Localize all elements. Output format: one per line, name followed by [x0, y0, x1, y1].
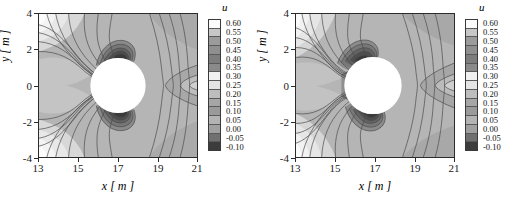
y-axis-label: y [ m ] [0, 30, 13, 62]
colorbar-title: u [479, 1, 485, 13]
plot-frame-left [38, 13, 198, 158]
ytickmark [291, 86, 295, 87]
xtick-label: 19 [153, 163, 164, 174]
ytickmark [291, 122, 295, 123]
x-axis-variable: x [359, 179, 364, 193]
colorbar-left: u 0.600.550.500.450.400.350.300.250.200.… [208, 13, 256, 161]
ytick-label: -2 [274, 117, 289, 128]
contour-plot-left: 13 15 17 19 21 4 2 0 -2 -4 x [ m ] y [ m… [0, 0, 257, 204]
xtick-label: 21 [449, 163, 460, 174]
colorbar-band [466, 55, 477, 64]
colorbar-band [466, 20, 477, 29]
colorbar-band [209, 99, 220, 108]
colorbar-band [466, 37, 477, 46]
ytickmark [291, 13, 295, 14]
ytick-label: -4 [17, 153, 32, 164]
contour-field-left [39, 14, 197, 157]
colorbar-band [209, 90, 220, 99]
xtick-label: 21 [192, 163, 203, 174]
colorbar-band [209, 81, 220, 90]
colorbar-band [209, 72, 220, 81]
ytickmark [291, 158, 295, 159]
ytickmark [34, 122, 38, 123]
colorbar-band [466, 125, 477, 134]
colorbar-band [466, 107, 477, 116]
ytick-label: -4 [274, 153, 289, 164]
colorbar-band [466, 81, 477, 90]
colorbar-band [209, 142, 220, 150]
colorbar-gradient [208, 19, 221, 151]
ytick-label: 4 [20, 8, 32, 19]
xtick-label: 17 [113, 163, 124, 174]
colorbar-band [466, 46, 477, 55]
xtick-label: 15 [330, 163, 341, 174]
colorbar-ticks: 0.600.550.500.450.400.350.300.250.200.15… [481, 19, 513, 151]
x-axis-unit: [ m ] [367, 179, 391, 193]
colorbar-band [209, 125, 220, 134]
colorbar-right: u 0.600.550.500.450.400.350.300.250.200.… [465, 13, 513, 161]
x-axis-label: x [ m ] [295, 179, 455, 194]
y-axis-label: y [ m ] [255, 30, 270, 62]
colorbar-band [466, 90, 477, 99]
y-axis-variable: y [0, 57, 12, 62]
xtick-label: 15 [73, 163, 84, 174]
ytick-label: 0 [20, 80, 32, 91]
colorbar-band [209, 29, 220, 38]
colorbar-tick-label: -0.10 [226, 142, 244, 151]
ytick-label: 2 [277, 44, 289, 55]
ytickmark [34, 86, 38, 87]
ytickmark [291, 49, 295, 50]
colorbar-band [209, 20, 220, 29]
colorbar-gradient [465, 19, 478, 151]
xtick-label: 19 [410, 163, 421, 174]
ytick-label: 2 [20, 44, 32, 55]
ytick-label: 4 [277, 8, 289, 19]
ytickmark [34, 13, 38, 14]
figure-contour-pair: 13 15 17 19 21 4 2 0 -2 -4 x [ m ] y [ m… [0, 0, 514, 204]
xtick-label: 17 [370, 163, 381, 174]
y-axis-variable: y [255, 57, 269, 62]
ytickmark [34, 49, 38, 50]
y-axis-unit: [ m ] [0, 30, 12, 54]
xtick-label: 13 [290, 163, 301, 174]
colorbar-band [466, 29, 477, 38]
x-axis-label: x [ m ] [38, 179, 198, 194]
colorbar-band [466, 142, 477, 150]
colorbar-band [209, 134, 220, 143]
colorbar-band [466, 99, 477, 108]
colorbar-band [466, 72, 477, 81]
xtick-label: 13 [33, 163, 44, 174]
y-axis-unit: [ m ] [255, 30, 269, 54]
plot-frame-right [295, 13, 455, 158]
colorbar-title: u [222, 1, 228, 13]
contour-field-right [296, 14, 454, 157]
colorbar-band [209, 55, 220, 64]
ytick-label: -2 [17, 117, 32, 128]
ytickmark [34, 158, 38, 159]
colorbar-band [466, 116, 477, 125]
colorbar-tick-label: -0.10 [483, 142, 501, 151]
colorbar-ticks: 0.600.550.500.450.400.350.300.250.200.15… [224, 19, 256, 151]
colorbar-band [466, 134, 477, 143]
contour-plot-right: 13 15 17 19 21 4 2 0 -2 -4 x [ m ] y [ m… [257, 0, 514, 204]
x-axis-unit: [ m ] [110, 179, 134, 193]
colorbar-band [209, 107, 220, 116]
colorbar-band [209, 64, 220, 73]
x-axis-variable: x [102, 179, 107, 193]
colorbar-band [209, 46, 220, 55]
colorbar-band [209, 37, 220, 46]
colorbar-band [466, 64, 477, 73]
ytick-label: 0 [277, 80, 289, 91]
colorbar-band [209, 116, 220, 125]
